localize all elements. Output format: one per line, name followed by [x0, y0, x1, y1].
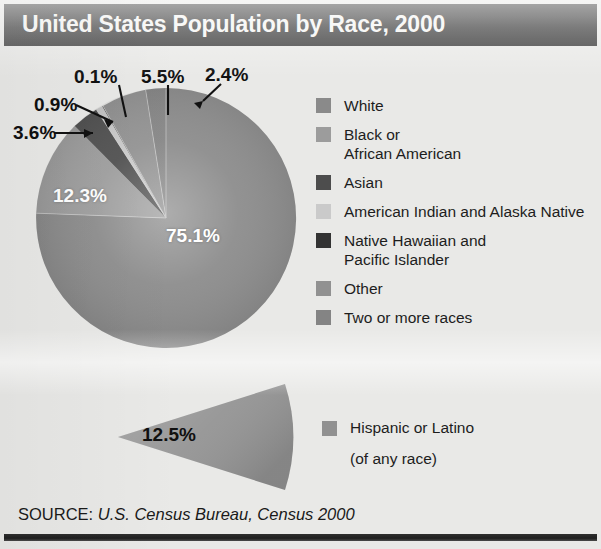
bottom-rule	[4, 534, 597, 541]
legend-swatch-native-hawaiian-and-pacific-islander	[316, 233, 331, 248]
legend-swatch-black-or-african-american	[316, 127, 331, 142]
source-note: SOURCE: U.S. Census Bureau, Census 2000	[18, 505, 355, 524]
chart-figure: United States Population by Race, 2000	[0, 0, 601, 549]
legend-label-asian: Asian	[344, 173, 383, 192]
pie-label-native-hawaiian-and-pacific-islander: 0.1%	[74, 66, 117, 88]
legend-label-native-hawaiian-and-pacific-islander: Native Hawaiian and Pacific Islander	[344, 231, 486, 269]
source-label: SOURCE:	[18, 505, 93, 523]
legend-item-black-or-african-american[interactable]: Black or African American	[316, 125, 596, 163]
pie-label-asian: 3.6%	[13, 122, 56, 144]
legend-label-other: Other	[344, 279, 383, 298]
legend-label-hispanic-or-latino: Hispanic or Latino	[350, 418, 474, 437]
legend-label-black-or-african-american: Black or African American	[344, 125, 461, 163]
legend-item-american-indian-and-alaska-native[interactable]: American Indian and Alaska Native	[316, 202, 596, 221]
pie-label-other: 5.5%	[141, 66, 184, 88]
pie-label-black-or-african-american: 12.3%	[53, 185, 107, 207]
legend-item-white[interactable]: White	[316, 96, 596, 115]
legend-swatch-hispanic-or-latino	[322, 421, 337, 436]
legend-label-american-indian-and-alaska-native: American Indian and Alaska Native	[344, 202, 584, 221]
title-bar: United States Population by Race, 2000	[4, 4, 597, 46]
pie-label-american-indian-and-alaska-native: 0.9%	[34, 94, 77, 116]
legend-item-native-hawaiian-and-pacific-islander[interactable]: Native Hawaiian and Pacific Islander	[316, 231, 596, 269]
source-value: U.S. Census Bureau, Census 2000	[98, 505, 355, 523]
hispanic-wedge-label: 12.5%	[142, 424, 196, 446]
legend: White Black or African American Asian Am…	[316, 96, 596, 337]
legend-sublabel-hispanic-or-latino: (of any race)	[350, 450, 437, 468]
legend-swatch-other	[316, 281, 331, 296]
legend-item-hispanic-or-latino[interactable]: Hispanic or Latino	[322, 418, 474, 437]
legend-item-asian[interactable]: Asian	[316, 173, 596, 192]
pie-shading	[36, 88, 296, 348]
pie-label-white: 75.1%	[166, 225, 220, 247]
population-pie-chart	[26, 80, 311, 360]
legend-swatch-two-or-more-races	[316, 310, 331, 325]
legend-label-two-or-more-races: Two or more races	[344, 308, 472, 327]
legend-label-white: White	[344, 96, 384, 115]
legend-swatch-asian	[316, 175, 331, 190]
pie-label-two-or-more-races: 2.4%	[205, 64, 248, 86]
legend-item-two-or-more-races[interactable]: Two or more races	[316, 308, 596, 327]
legend-swatch-american-indian-and-alaska-native	[316, 204, 331, 219]
legend-swatch-white	[316, 98, 331, 113]
legend-item-other[interactable]: Other	[316, 279, 596, 298]
page-title: United States Population by Race, 2000	[22, 11, 445, 38]
pie-svg	[26, 80, 311, 360]
